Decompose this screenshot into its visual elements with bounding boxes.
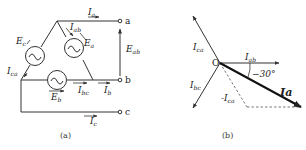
delta-left-upper-wire <box>41 21 57 47</box>
label-ic: Ic <box>89 116 98 127</box>
label-eab: Eab <box>125 44 140 55</box>
terminal-b-label: b <box>125 75 131 85</box>
sine-wave-icon <box>68 46 80 52</box>
label-ibc: Ibc <box>77 85 89 96</box>
terminal-c <box>118 110 122 114</box>
label-eb: Eb <box>50 92 62 103</box>
sine-wave-icon <box>29 54 41 60</box>
caption-b: (b) <box>222 131 233 140</box>
label-ec: Ec <box>15 36 27 47</box>
label-ia: Ia <box>87 7 96 18</box>
source-ec-polarity-mark <box>27 40 30 44</box>
angle-arc <box>248 63 250 77</box>
terminal-a-label: a <box>125 16 131 26</box>
caption-a: (a) <box>60 131 71 140</box>
terminal-a <box>118 19 122 23</box>
label-phasor-ibc: Ibc <box>189 80 201 91</box>
label-phasor-iab: Iab <box>244 52 256 63</box>
label-phasor-neg-ica: -Ica <box>221 93 235 104</box>
phasor-labels: O Ica Iab Ibc -Ica Ia −30° (b) <box>189 42 292 140</box>
three-phase-delta-diagram: Ia Iab Ea Ec Ica Eb Ibc Ib Ic Eab a b c … <box>0 0 306 150</box>
delta-right-lower-wire <box>83 60 93 80</box>
label-ea: Ea <box>83 38 95 49</box>
sine-wave-icon <box>51 78 63 84</box>
phasor-ica <box>193 16 220 63</box>
terminal-c-label: c <box>125 107 130 117</box>
delta-right-upper-wire <box>57 21 66 37</box>
label-ib: Ib <box>103 85 112 96</box>
label-iab: Iab <box>69 22 81 33</box>
origin-label: O <box>212 58 219 68</box>
label-phasor-ia: Ia <box>279 86 292 99</box>
angle-label: −30° <box>252 69 276 79</box>
label-phasor-ica: Ica <box>192 42 204 53</box>
label-ica: Ica <box>6 66 18 77</box>
terminal-b <box>118 78 122 82</box>
delta-left-lower-wire <box>21 65 30 80</box>
